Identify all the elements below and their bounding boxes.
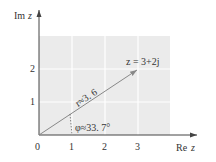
x-tick-3: 3 [135, 141, 140, 152]
x-tick-1: 1 [69, 141, 74, 152]
angle-label: φ≈33. 7° [75, 122, 110, 133]
x-axis-label: Rez [176, 142, 195, 153]
origin-label: 0 [35, 141, 40, 152]
y-tick-1: 1 [30, 96, 35, 107]
complex-plane-diagram: Imz Rez 0 1 2 3 1 2 z = 3+2j r≈3. 6 φ≈33… [0, 0, 216, 162]
x-tick-2: 2 [102, 141, 107, 152]
y-tick-2: 2 [30, 63, 35, 74]
point-label: z = 3+2j [126, 56, 160, 67]
y-axis-label: Imz [14, 10, 32, 21]
